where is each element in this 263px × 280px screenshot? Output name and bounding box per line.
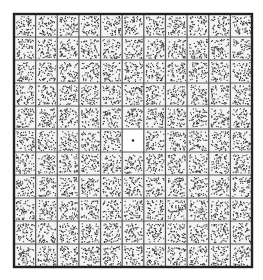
- stipple-grid: [0, 0, 263, 280]
- stipple-grid-figure: [0, 0, 263, 280]
- fixation-dot-icon: [132, 139, 134, 141]
